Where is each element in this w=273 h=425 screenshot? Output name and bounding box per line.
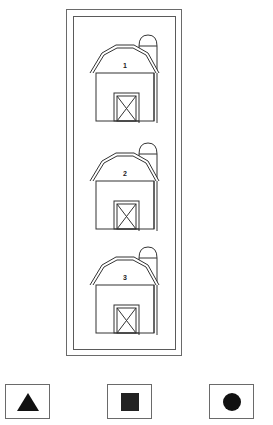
triangle-choice[interactable] bbox=[5, 384, 50, 419]
barn-icon bbox=[88, 240, 168, 335]
circle-icon bbox=[223, 393, 241, 411]
barn-icon bbox=[88, 136, 168, 231]
square-icon bbox=[121, 393, 139, 411]
barn-number: 2 bbox=[96, 170, 154, 177]
barn-icon bbox=[88, 28, 168, 123]
barn-2: 2 bbox=[88, 136, 168, 231]
square-choice[interactable] bbox=[107, 384, 152, 419]
triangle-icon bbox=[17, 393, 39, 411]
barn-number: 1 bbox=[96, 62, 154, 69]
circle-choice[interactable] bbox=[209, 384, 254, 419]
barn-number: 3 bbox=[96, 274, 154, 281]
barn-1: 1 bbox=[88, 28, 168, 123]
barn-3: 3 bbox=[88, 240, 168, 335]
